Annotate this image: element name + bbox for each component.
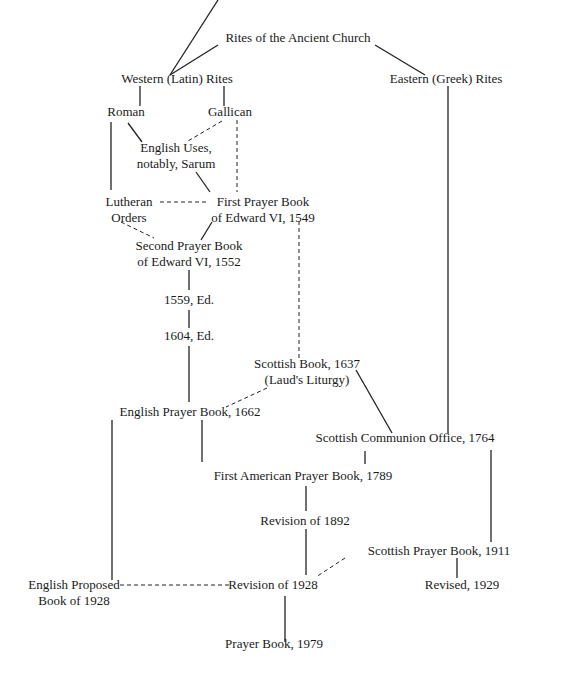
- node-first-american-prayer-book-1789: First American Prayer Book, 1789: [214, 468, 393, 484]
- node-label: Revision of 1928: [228, 577, 318, 593]
- node-label: Eastern (Greek) Rites: [390, 71, 503, 87]
- node-label: Scottish Book, 1637: [254, 356, 360, 372]
- node-label: Roman: [107, 104, 145, 120]
- node-label: Revised, 1929: [425, 577, 499, 593]
- node-label: 1604, Ed.: [164, 328, 214, 344]
- node-lutheran-orders: Lutheran Orders: [106, 194, 153, 226]
- node-english-uses-sarum: English Uses, notably, Sarum: [137, 140, 216, 172]
- edge-ancient-western: [170, 0, 218, 75]
- node-scottish-communion-office-1764: Scottish Communion Office, 1764: [316, 430, 495, 446]
- node-english-proposed-book-1928: English Proposed Book of 1928: [28, 577, 119, 609]
- node-second-prayer-book-1552: Second Prayer Book of Edward VI, 1552: [136, 238, 243, 270]
- node-roman: Roman: [107, 104, 145, 120]
- node-english-prayer-book-1662: English Prayer Book, 1662: [120, 404, 261, 420]
- node-label: English Proposed: [28, 577, 119, 593]
- node-label: English Uses,: [137, 140, 216, 156]
- node-label: Prayer Book, 1979: [225, 636, 323, 652]
- edge-scottish1911-rev1928: [316, 558, 345, 577]
- node-label: of Edward VI, 1552: [136, 254, 243, 270]
- node-gallican: Gallican: [208, 104, 252, 120]
- node-ancient-church: Rites of the Ancient Church: [225, 30, 370, 46]
- node-label: Scottish Prayer Book, 1911: [368, 543, 511, 559]
- node-revision-1892: Revision of 1892: [260, 513, 350, 529]
- node-label: Book of 1928: [28, 593, 119, 609]
- node-label: (Laud's Liturgy): [254, 372, 360, 388]
- node-label: English Prayer Book, 1662: [120, 404, 261, 420]
- node-prayer-book-1979: Prayer Book, 1979: [225, 636, 323, 652]
- node-1604-ed: 1604, Ed.: [164, 328, 214, 344]
- node-label: Western (Latin) Rites: [121, 71, 233, 87]
- node-label: First American Prayer Book, 1789: [214, 468, 393, 484]
- node-label: First Prayer Book: [211, 194, 315, 210]
- edge-scottish1637-scottish1764: [356, 370, 392, 433]
- node-label: Orders: [106, 210, 153, 226]
- node-label: Scottish Communion Office, 1764: [316, 430, 495, 446]
- node-western-rites: Western (Latin) Rites: [121, 71, 233, 87]
- node-eastern-rites: Eastern (Greek) Rites: [390, 71, 503, 87]
- edge-gallican-sarum: [188, 121, 222, 141]
- node-revision-1928: Revision of 1928: [228, 577, 318, 593]
- node-label: Rites of the Ancient Church: [225, 30, 370, 46]
- node-scottish-book-1637: Scottish Book, 1637 (Laud's Liturgy): [254, 356, 360, 388]
- node-first-prayer-book-1549: First Prayer Book of Edward VI, 1549: [211, 194, 315, 226]
- node-revised-1929: Revised, 1929: [425, 577, 499, 593]
- node-label: 1559, Ed.: [164, 292, 214, 308]
- node-label: Second Prayer Book: [136, 238, 243, 254]
- node-label: notably, Sarum: [137, 156, 216, 172]
- node-label: Lutheran: [106, 194, 153, 210]
- node-scottish-prayer-book-1911: Scottish Prayer Book, 1911: [368, 543, 511, 559]
- edge-sarum-first1549: [196, 172, 210, 192]
- node-1559-ed: 1559, Ed.: [164, 292, 214, 308]
- node-label: Revision of 1892: [260, 513, 350, 529]
- node-label: of Edward VI, 1549: [211, 210, 315, 226]
- node-label: Gallican: [208, 104, 252, 120]
